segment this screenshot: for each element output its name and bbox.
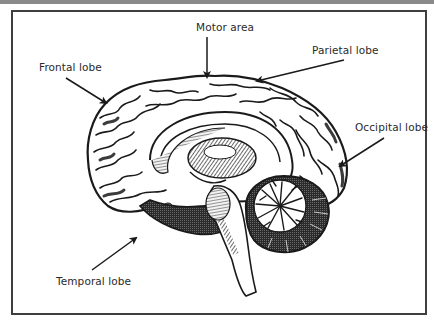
- label-parietal-lobe: Parietal lobe: [312, 44, 379, 56]
- temporal-lobe-arrow: [92, 238, 136, 270]
- frontal-lobe-arrow: [66, 78, 106, 103]
- parietal-lobe-arrow: [257, 60, 344, 81]
- cerebellum: [246, 176, 329, 252]
- occipital-lobe-arrow: [340, 138, 384, 166]
- label-frontal-lobe: Frontal lobe: [39, 61, 102, 73]
- label-temporal-lobe: Temporal lobe: [56, 275, 131, 287]
- label-occipital-lobe: Occipital lobe: [355, 121, 428, 133]
- label-motor-area: Motor area: [196, 21, 254, 33]
